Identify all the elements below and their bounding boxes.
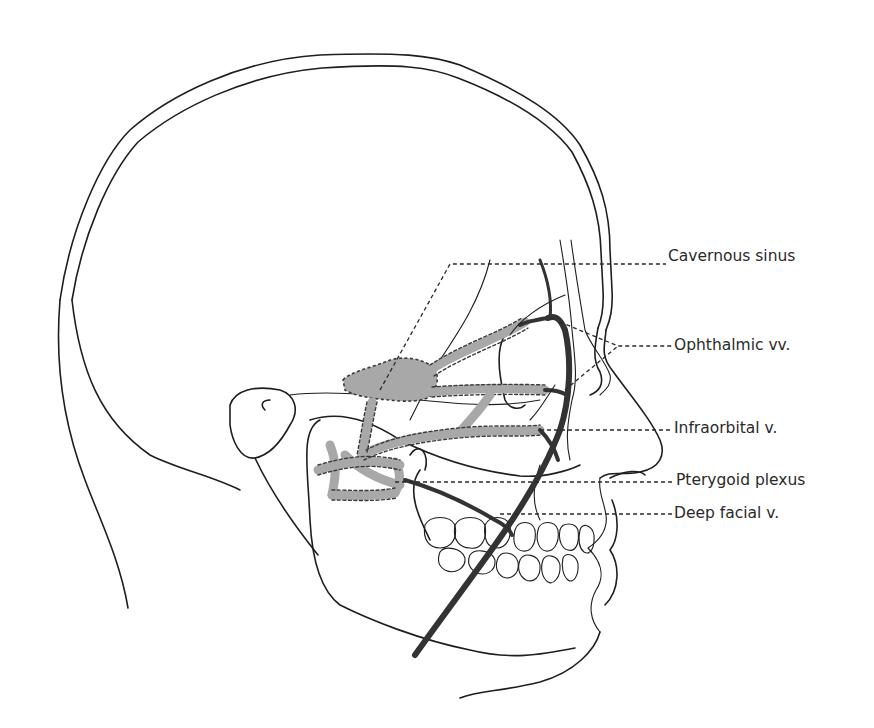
anatomy-figure: Cavernous sinus Ophthalmic vv. Infraorbi…: [0, 0, 874, 728]
label-ophthalmic-vv: Ophthalmic vv.: [674, 338, 791, 354]
skull-outline: [60, 54, 612, 330]
label-deep-facial-v: Deep facial v.: [674, 506, 779, 522]
pterygoid-plexus-shape: [318, 395, 540, 501]
label-cavernous-sinus: Cavernous sinus: [668, 249, 795, 265]
neck-outline: [58, 300, 240, 608]
leader-ophthalmic-vv: [560, 322, 672, 346]
label-infraorbital-v: Infraorbital v.: [674, 421, 777, 437]
head-illustration: [0, 0, 874, 728]
facial-vein: [405, 260, 569, 655]
face-profile: [460, 328, 662, 698]
cavernous-sinus-shape: [343, 358, 437, 401]
ophthalmic-veins-shading: [430, 318, 545, 397]
label-pterygoid-plexus: Pterygoid plexus: [676, 473, 805, 489]
